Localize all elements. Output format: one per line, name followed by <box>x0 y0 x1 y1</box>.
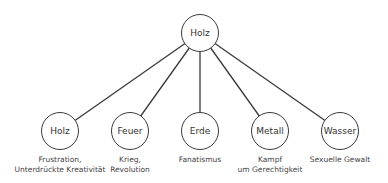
child-node-label: Holz <box>50 126 70 136</box>
root-node-label: Holz <box>190 28 210 38</box>
child-node-label: Feuer <box>117 126 142 136</box>
child-node-wasser: Wasser <box>321 112 359 150</box>
child-node-metall: Metall <box>251 112 289 150</box>
root-node-holz: Holz <box>181 14 219 52</box>
child-node-label: Erde <box>190 126 210 136</box>
child-node-erde: Erde <box>181 112 219 150</box>
child-node-label: Metall <box>256 126 283 136</box>
child-node-holz: Holz <box>41 112 79 150</box>
child-node-label: Wasser <box>324 126 356 136</box>
child-node-feuer: Feuer <box>111 112 149 150</box>
description-wasser: Sexuelle Gewalt <box>285 155 388 165</box>
